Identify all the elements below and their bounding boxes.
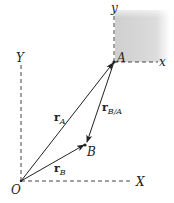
X-axis-label: X bbox=[135, 175, 145, 189]
origin-dot bbox=[20, 180, 22, 182]
r-B-over-A-label: rB/A bbox=[102, 101, 122, 116]
r-B-label: rB bbox=[54, 162, 66, 177]
r-A-label: rA bbox=[54, 111, 66, 126]
point-A-label: A bbox=[116, 51, 126, 65]
point-B-label: B bbox=[86, 145, 96, 159]
vector-r-B-over-A bbox=[87, 62, 114, 142]
local-y-label: y bbox=[110, 1, 118, 15]
origin-label: O bbox=[11, 183, 21, 197]
local-x-label: x bbox=[159, 55, 166, 69]
point-A-dot bbox=[112, 60, 115, 63]
diagram-canvas: y x A B Y X O rA rB rB/A bbox=[0, 0, 174, 203]
vector-r-A bbox=[21, 63, 113, 181]
Y-axis-label: Y bbox=[16, 51, 25, 65]
vector-r-B bbox=[21, 145, 84, 181]
